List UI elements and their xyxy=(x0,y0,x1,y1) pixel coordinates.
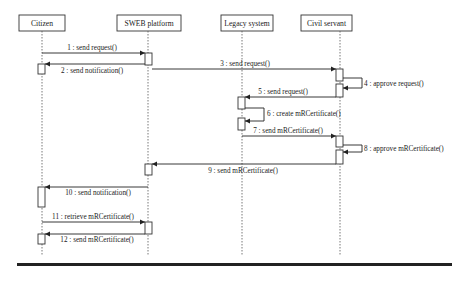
message-9: 9 : send mRCertificate() xyxy=(152,164,336,175)
participant-label: Citizen xyxy=(31,19,53,28)
message-label: 2 : send notification() xyxy=(61,67,124,75)
bottom-rule xyxy=(17,263,452,266)
message-2: 2 : send notification() xyxy=(45,64,145,75)
message-label: 8 : approve mRCertificate() xyxy=(364,145,444,153)
sequence-diagram: Citizen SWEB platform Legacy system Civi… xyxy=(0,0,466,282)
message-label: 3 : send request() xyxy=(220,60,270,68)
message-label: 11 : retrieve mRCertificate() xyxy=(52,213,134,221)
message-label: 7 : send mRCertificate() xyxy=(253,127,323,135)
message-10: 10 : send notification() xyxy=(45,187,148,197)
message-7: 7 : send mRCertificate() xyxy=(242,127,336,136)
message-11: 11 : retrieve mRCertificate() xyxy=(42,213,145,222)
message-label: 1 : send request() xyxy=(67,44,117,52)
message-8-self: 8 : approve mRCertificate() xyxy=(343,145,444,153)
message-label: 4 : approve request() xyxy=(364,80,424,88)
participant-civil-servant: Civil servant xyxy=(301,15,352,256)
message-label: 6 : create mRCertificate() xyxy=(267,110,341,118)
message-4-self: 4 : approve request() xyxy=(343,78,424,88)
message-label: 12 : send mRCertificate() xyxy=(60,236,134,244)
participant-legacy-system: Legacy system xyxy=(221,15,273,256)
message-label: 5 : send request() xyxy=(258,88,308,96)
message-1: 1 : send request() xyxy=(42,44,145,53)
message-6-self: 6 : create mRCertificate() xyxy=(245,108,341,121)
message-label: 9 : send mRCertificate() xyxy=(208,167,278,175)
participant-label: Civil servant xyxy=(307,19,347,28)
message-3: 3 : send request() xyxy=(152,60,336,69)
participant-label: SWEB platform xyxy=(124,19,173,28)
message-label: 10 : send notification() xyxy=(65,189,131,197)
message-12: 12 : send mRCertificate() xyxy=(45,234,145,244)
participant-label: Legacy system xyxy=(224,19,269,28)
message-5: 5 : send request() xyxy=(245,88,336,97)
